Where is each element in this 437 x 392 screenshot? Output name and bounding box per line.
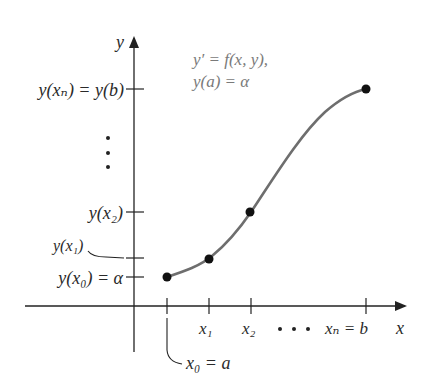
ode-equation-line2: y(a) = α bbox=[191, 72, 250, 91]
x-tick-label-x2: x₂ bbox=[241, 319, 256, 338]
x-ellipsis-dot bbox=[278, 327, 282, 331]
x0-leader-line bbox=[167, 318, 182, 364]
y-tick-label-yn: y(xₙ) = y(b) bbox=[37, 80, 124, 101]
mesh-point-x2 bbox=[246, 208, 255, 217]
x-ellipsis-dot bbox=[306, 327, 310, 331]
x-axis-label: x bbox=[395, 318, 404, 338]
y-tick-label-y2: y(x₂) bbox=[87, 203, 123, 224]
x-tick-label-xn: xₙ = b bbox=[324, 319, 368, 338]
x0-label: x₀ = a bbox=[185, 353, 230, 373]
y-tick-label-y0: y(x₀) = α bbox=[56, 268, 123, 289]
y-ellipsis-dot bbox=[106, 136, 110, 140]
y-tick-label-y1: y(x₁) bbox=[51, 237, 83, 255]
solution-curve bbox=[167, 89, 366, 277]
mesh-point-xn bbox=[362, 85, 371, 94]
mesh-point-x0 bbox=[163, 273, 172, 282]
y1-leader-line bbox=[88, 251, 124, 258]
ode-equation-line1: y′ = f(x, y), bbox=[191, 50, 268, 69]
y-ellipsis-dot bbox=[106, 151, 110, 155]
solution-curve-diagram: y x y(xₙ) = y(b) y(x₂) y(x₁) y(x₀) = α x… bbox=[0, 0, 437, 392]
y-ellipsis-dot bbox=[106, 165, 110, 169]
y-axis-label: y bbox=[114, 32, 124, 52]
x-tick-label-x1: x₁ bbox=[198, 319, 212, 338]
x-ellipsis-dot bbox=[292, 327, 296, 331]
mesh-point-x1 bbox=[205, 255, 214, 264]
